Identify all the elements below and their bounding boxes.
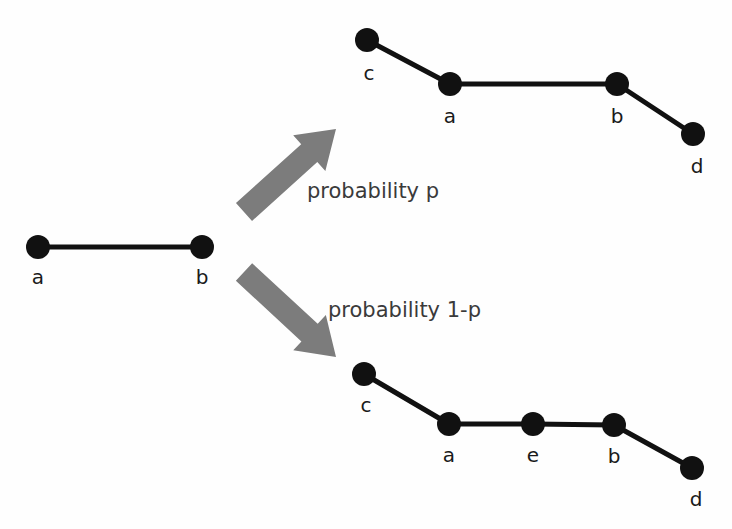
- node-label-b: b: [196, 265, 209, 289]
- graph-edge-c-a: [367, 40, 450, 84]
- node-label-c: c: [361, 393, 372, 417]
- node-label-d: d: [691, 154, 704, 178]
- branch-label-lower: probability 1-p: [328, 298, 481, 322]
- node-label-c: c: [364, 61, 375, 85]
- graph-node-b: [602, 413, 626, 437]
- node-label-a: a: [32, 265, 44, 289]
- graph-node-a: [26, 235, 50, 259]
- graph-node-a: [437, 412, 461, 436]
- graph-edge-e-b: [533, 424, 614, 425]
- node-label-d: d: [690, 487, 703, 511]
- node-label-b: b: [611, 104, 624, 128]
- graph-edge-b-d: [617, 84, 693, 134]
- node-labels-layer: abcabdcaebd: [32, 61, 703, 511]
- arrow-up-right: [236, 129, 336, 221]
- graph-node-b: [605, 72, 629, 96]
- graph-node-e: [521, 412, 545, 436]
- diagram-canvas: abcabdcaebd probability pprobability 1-p: [0, 0, 732, 529]
- graph-node-c: [352, 362, 376, 386]
- node-label-a: a: [443, 443, 455, 467]
- node-label-b: b: [608, 444, 621, 468]
- graph-node-c: [355, 28, 379, 52]
- graph-node-b: [190, 235, 214, 259]
- graph-edge-b-d: [614, 425, 692, 468]
- node-label-a: a: [444, 104, 456, 128]
- graph-edge-c-a: [364, 374, 449, 424]
- arrows-layer: [236, 129, 336, 357]
- branch-label-upper: probability p: [307, 179, 439, 203]
- node-label-e: e: [527, 443, 539, 467]
- figure-svg: abcabdcaebd probability pprobability 1-p: [0, 0, 732, 529]
- graph-node-a: [438, 72, 462, 96]
- graph-node-d: [680, 456, 704, 480]
- branch-labels-layer: probability pprobability 1-p: [307, 179, 481, 322]
- graph-node-d: [681, 122, 705, 146]
- arrow-down-right: [236, 263, 336, 357]
